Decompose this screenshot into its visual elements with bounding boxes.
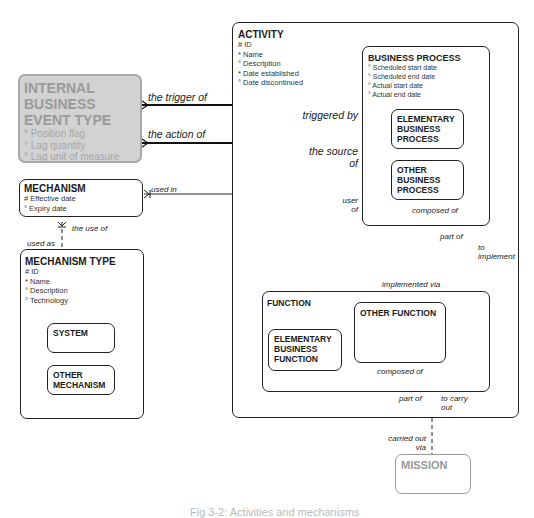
entity-title: INTERNAL BUSINESS EVENT TYPE — [24, 80, 142, 128]
label-trigger-of: the trigger of — [148, 91, 207, 103]
entity-title: BUSINESS PROCESS — [368, 53, 461, 63]
label-bp-composed-of: composed of — [412, 206, 458, 215]
label-used-in: used in — [151, 185, 177, 194]
entity-title: ELEMENTARY BUSINESS PROCESS — [392, 110, 457, 144]
attribute: ° Description — [238, 59, 303, 69]
subtype-other-mechanism[interactable]: OTHER MECHANISM — [47, 365, 115, 395]
label-fn-part-of: part of — [399, 394, 422, 403]
attribute: ° Scheduled end date — [368, 72, 461, 81]
entity-title: ACTIVITY — [238, 29, 303, 40]
entity-title: OTHER MECHANISM — [48, 366, 113, 390]
crowsfoot-icon — [144, 190, 150, 198]
entity-title: MECHANISM — [24, 183, 86, 194]
crowsfoot-icon — [142, 139, 148, 147]
label-user-of: user of — [336, 196, 358, 214]
label-source-of: the source of — [300, 145, 358, 169]
attribute: * Date established — [238, 69, 303, 79]
attribute: ° Technology — [25, 296, 116, 306]
attribute: ° Date discontinued — [238, 78, 303, 88]
label-fn-composed-of: composed of — [377, 367, 423, 376]
subtype-other-business-process[interactable]: OTHER BUSINESS PROCESS — [391, 160, 464, 200]
entity-title: MECHANISM TYPE — [25, 256, 116, 267]
label-the-use-of: the use of — [72, 224, 107, 233]
subtype-elementary-business-process[interactable]: ELEMENTARY BUSINESS PROCESS — [391, 109, 464, 149]
entity-mechanism[interactable]: MECHANISM # Effective date ° Expiry date — [19, 179, 143, 217]
attribute: # Effective date — [24, 194, 86, 204]
entity-internal-business-event-type[interactable]: INTERNAL BUSINESS EVENT TYPE * Position … — [18, 74, 142, 163]
attribute: ° Actual start date — [368, 81, 461, 90]
label-implemented-via: implemented via — [382, 280, 440, 289]
label-to-carry-out: to carry out — [441, 394, 479, 412]
subtype-other-function[interactable]: OTHER FUNCTION — [354, 302, 446, 363]
label-carried-out-via: carried out via — [382, 434, 426, 452]
label-used-as: used as — [27, 239, 55, 248]
label-triggered-by: triggered by — [290, 109, 358, 121]
subtype-system[interactable]: SYSTEM — [47, 323, 115, 353]
attribute: ° Scheduled start date — [368, 63, 461, 72]
label-bp-part-of: part of — [440, 232, 463, 241]
entity-title: ELEMENTARY BUSINESS FUNCTION — [269, 330, 340, 364]
attribute: ° Lag unit of measure — [24, 151, 142, 163]
label-to-implement: to implement — [478, 243, 522, 261]
attribute: * Name — [25, 277, 116, 287]
attribute: * Name — [238, 50, 303, 60]
entity-title: MISSION — [396, 455, 470, 471]
entity-title: OTHER FUNCTION — [355, 303, 445, 318]
label-action-of: the action of — [148, 128, 205, 140]
attribute: * Position flag — [24, 128, 142, 140]
attribute: ° Expiry date — [24, 204, 86, 214]
attribute: ° Lag quantity — [24, 140, 142, 152]
subtype-elementary-business-function[interactable]: ELEMENTARY BUSINESS FUNCTION — [268, 329, 342, 371]
entity-title: FUNCTION — [267, 298, 311, 308]
crowsfoot-icon — [58, 222, 66, 227]
attribute: # ID — [25, 267, 116, 277]
entity-mission[interactable]: MISSION — [395, 454, 471, 494]
attribute: # ID — [238, 40, 303, 50]
attribute: ° Actual end date — [368, 90, 461, 99]
entity-title: SYSTEM — [48, 324, 114, 338]
entity-title: OTHER BUSINESS PROCESS — [392, 161, 457, 195]
attribute: ° Description — [25, 286, 116, 296]
figure-caption: Fig 3-2: Activities and mechanisms — [190, 506, 359, 518]
